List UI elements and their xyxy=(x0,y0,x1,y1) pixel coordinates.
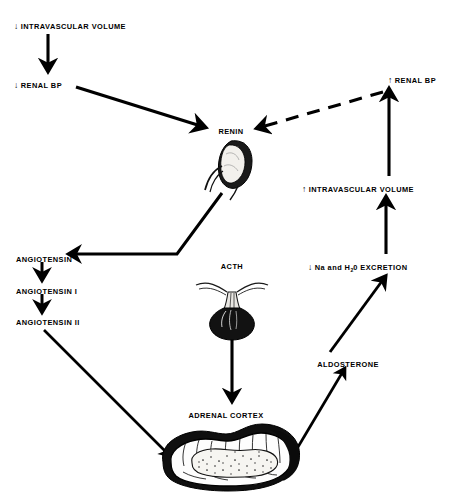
label-text-tail: 0 EXCRETION xyxy=(353,263,407,272)
label-text: ANGIOTENSIN xyxy=(16,255,72,264)
label-aldosterone: ALDOSTERONE xyxy=(317,361,379,368)
label-angiotensin-ii: ANGIOTENSIN II xyxy=(16,319,80,326)
label-text: RENIN xyxy=(218,127,243,136)
down-arrow-icon: ↓ xyxy=(14,80,18,90)
label-angiotensin-i: ANGIOTENSIN I xyxy=(16,288,77,295)
label-text: ALDOSTERONE xyxy=(317,360,379,369)
pituitary-gland-illustration xyxy=(196,283,268,340)
label-acth: ACTH xyxy=(221,263,243,270)
label-angiotensin: ANGIOTENSIN xyxy=(16,256,72,263)
diagram-canvas: ↓ INTRAVASCULAR VOLUME ↓ RENAL BP RENIN … xyxy=(0,0,456,500)
label-text: RENAL BP xyxy=(395,76,436,85)
label-text: Na and H xyxy=(315,263,351,272)
up-arrow-icon: ↑ xyxy=(302,184,306,194)
label-text: INTRAVASCULAR VOLUME xyxy=(21,22,126,31)
label-intravascular-volume-increase: ↑ INTRAVASCULAR VOLUME xyxy=(302,185,414,194)
adrenal-gland-illustration xyxy=(163,424,300,491)
label-adrenal-cortex: ADRENAL CORTEX xyxy=(188,412,263,419)
label-text: INTRAVASCULAR VOLUME xyxy=(309,185,414,194)
down-arrow-icon: ↓ xyxy=(14,21,18,31)
label-renal-bp-increase: ↑ RENAL BP xyxy=(388,76,436,85)
up-arrow-icon: ↑ xyxy=(388,75,392,85)
label-na-h2o-excretion: ↓ Na and H20 EXCRETION xyxy=(308,263,408,273)
kidney-illustration xyxy=(205,141,252,200)
label-text: ANGIOTENSIN II xyxy=(16,318,80,327)
label-text: ANGIOTENSIN I xyxy=(16,287,77,296)
label-text: ACTH xyxy=(221,262,243,271)
label-intravascular-volume-decrease: ↓ INTRAVASCULAR VOLUME xyxy=(14,22,126,31)
label-text: ADRENAL CORTEX xyxy=(188,411,263,420)
label-renal-bp-decrease: ↓ RENAL BP xyxy=(14,81,62,90)
down-arrow-icon: ↓ xyxy=(308,262,312,272)
label-text: RENAL BP xyxy=(21,81,62,90)
label-renin: RENIN xyxy=(218,128,243,135)
